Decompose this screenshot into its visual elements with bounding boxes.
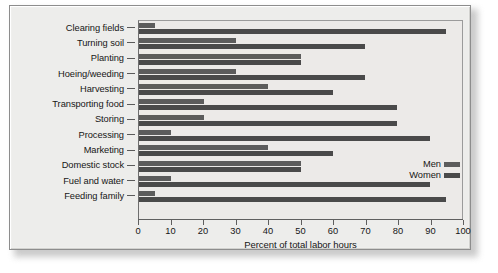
category-label-row: Domestic stock: [12, 158, 138, 173]
category-label: Harvesting: [80, 84, 124, 94]
x-axis-tick: [203, 220, 204, 225]
category-label: Hoeing/weeding: [58, 69, 124, 79]
category-tick-dash: [127, 58, 135, 59]
category-tick-dash: [127, 27, 135, 28]
x-axis-tick-label: 30: [230, 226, 240, 236]
bar-group: [139, 128, 462, 143]
x-axis-tick: [138, 220, 139, 225]
category-label-row: Turning soil: [12, 35, 138, 50]
legend-item: Women: [398, 170, 460, 180]
x-axis-tick: [171, 220, 172, 225]
bar-women: [139, 60, 301, 65]
bar-group: [139, 143, 462, 158]
x-axis-tick: [268, 220, 269, 225]
category-label: Processing: [79, 130, 125, 140]
category-label-row: Fuel and water: [12, 173, 138, 188]
x-axis-tick: [463, 220, 464, 225]
x-axis-tick-label: 20: [198, 226, 208, 236]
bar-men: [139, 84, 268, 89]
category-tick-dash: [127, 119, 135, 120]
bar-men: [139, 99, 204, 104]
x-axis-title: Percent of total labor hours: [138, 239, 463, 250]
bar-men: [139, 115, 204, 120]
bar-group: [139, 113, 462, 128]
category-tick-dash: [127, 42, 135, 43]
x-axis-tick-label: 10: [165, 226, 175, 236]
legend-swatch: [444, 173, 460, 178]
x-axis-tick: [398, 220, 399, 225]
category-label: Transporting food: [52, 99, 124, 109]
bar-women: [139, 90, 333, 95]
bar-women: [139, 136, 430, 141]
category-label: Fuel and water: [63, 176, 124, 186]
bar-men: [139, 176, 171, 181]
category-tick-dash: [127, 150, 135, 151]
category-tick-dash: [127, 134, 135, 135]
category-label: Domestic stock: [62, 160, 124, 170]
x-axis-tick-label: 50: [295, 226, 305, 236]
bar-women: [139, 197, 446, 202]
bar-group: [139, 82, 462, 97]
bar-men: [139, 23, 155, 28]
bar-women: [139, 121, 397, 126]
bar-group: [139, 67, 462, 82]
bar-women: [139, 44, 365, 49]
bar-women: [139, 182, 430, 187]
category-label-row: Transporting food: [12, 96, 138, 111]
figure-inner-panel: Clearing fieldsTurning soilPlantingHoein…: [12, 8, 468, 247]
bar-group: [139, 97, 462, 112]
bar-men: [139, 161, 301, 166]
bar-men: [139, 54, 301, 59]
category-tick-dash: [127, 180, 135, 181]
bar-group: [139, 189, 462, 204]
legend-swatch: [444, 162, 460, 167]
category-axis-labels: Clearing fieldsTurning soilPlantingHoein…: [12, 20, 138, 219]
category-label-row: Planting: [12, 51, 138, 66]
bar-men: [139, 38, 236, 43]
category-label-row: Processing: [12, 127, 138, 142]
category-label: Marketing: [84, 145, 124, 155]
bar-women: [139, 167, 301, 172]
plot-area: [138, 20, 463, 219]
category-label: Turning soil: [77, 38, 124, 48]
bar-men: [139, 145, 268, 150]
category-tick-dash: [127, 73, 135, 74]
bar-men: [139, 69, 236, 74]
figure-frame: Clearing fieldsTurning soilPlantingHoein…: [9, 5, 471, 250]
x-axis-tick-label: 60: [328, 226, 338, 236]
x-axis-tick: [431, 220, 432, 225]
bar-men: [139, 130, 171, 135]
category-label: Clearing fields: [66, 23, 124, 33]
x-axis-tick-label: 70: [360, 226, 370, 236]
category-label: Storing: [95, 114, 124, 124]
legend-label: Men: [423, 159, 441, 169]
category-label-row: Harvesting: [12, 81, 138, 96]
bar-women: [139, 75, 365, 80]
category-label-row: Hoeing/weeding: [12, 66, 138, 81]
bar-group: [139, 36, 462, 51]
x-axis-tick-label: 90: [425, 226, 435, 236]
category-label-row: Feeding family: [12, 188, 138, 203]
category-label: Planting: [91, 53, 124, 63]
x-axis-tick-label: 40: [263, 226, 273, 236]
bar-group: [139, 52, 462, 67]
category-label-row: Storing: [12, 112, 138, 127]
category-tick-dash: [127, 88, 135, 89]
x-axis-tick-label: 80: [393, 226, 403, 236]
x-axis-tick: [236, 220, 237, 225]
bar-women: [139, 105, 397, 110]
category-tick-dash: [127, 195, 135, 196]
legend-label: Women: [409, 170, 441, 180]
bar-women: [139, 151, 333, 156]
category-label: Feeding family: [64, 191, 124, 201]
x-axis-tick-label: 0: [135, 226, 140, 236]
x-axis-tick: [301, 220, 302, 225]
x-axis-tick-label: 100: [455, 226, 471, 236]
category-tick-dash: [127, 104, 135, 105]
bar-men: [139, 191, 155, 196]
category-tick-dash: [127, 165, 135, 166]
category-label-row: Marketing: [12, 142, 138, 157]
bar-women: [139, 29, 446, 34]
x-axis-tick-labels: 0102030405060708090100: [138, 226, 463, 239]
category-label-row: Clearing fields: [12, 20, 138, 35]
